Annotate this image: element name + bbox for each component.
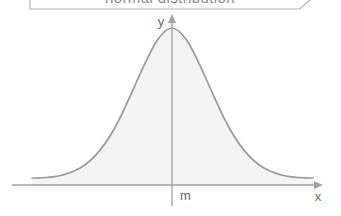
- normal-distribution-figure: normal distribution x y m: [0, 0, 341, 216]
- banner-callout: normal distribution: [30, 0, 313, 9]
- banner-caption: normal distribution: [105, 0, 235, 6]
- x-axis-arrowhead-icon: [314, 181, 323, 189]
- x-axis: x: [12, 181, 323, 204]
- y-axis-label: y: [158, 14, 165, 29]
- mean-label: m: [180, 188, 191, 203]
- y-axis-arrowhead-icon: [168, 14, 176, 23]
- x-axis-label: x: [315, 189, 322, 204]
- figure-canvas: normal distribution x y m: [0, 0, 341, 216]
